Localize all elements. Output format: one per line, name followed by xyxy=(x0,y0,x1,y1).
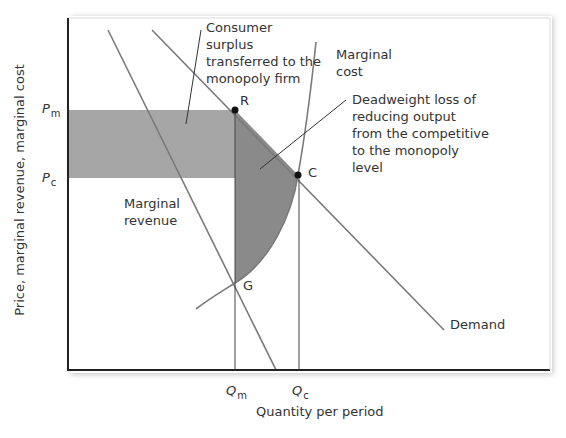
y-axis-label: Price, marginal revenue, marginal cost xyxy=(12,64,27,316)
deadweight-loss-annotation: Deadweight loss of reducing output from … xyxy=(352,91,489,176)
marginal-cost-label: Marginal cost xyxy=(336,46,392,80)
pm-main: P xyxy=(42,101,50,116)
point-c-marker xyxy=(295,172,302,179)
pc-main: P xyxy=(42,170,50,185)
mr-line-1: Marginal xyxy=(124,195,180,212)
dwl-line-5: level xyxy=(352,159,489,176)
mc-line-1: Marginal xyxy=(336,46,392,63)
cs-line-3: transferred to the xyxy=(206,53,321,70)
point-r-marker xyxy=(232,107,239,114)
qc-sub: c xyxy=(303,390,309,401)
demand-label: Demand xyxy=(450,317,505,333)
pc-tick-label: Pc xyxy=(42,170,56,187)
consumer-surplus-annotation: Consumer surplus transferred to the mono… xyxy=(206,19,321,87)
qm-main: Q xyxy=(226,383,236,398)
pm-tick-label: Pm xyxy=(42,101,61,118)
cs-line-1: Consumer xyxy=(206,19,321,36)
point-c-label: C xyxy=(308,165,317,181)
qc-tick-label: Qc xyxy=(292,383,309,400)
dwl-line-3: from the competitive xyxy=(352,125,489,142)
dwl-line-2: reducing output xyxy=(352,108,489,125)
mc-line-2: cost xyxy=(336,63,392,80)
pc-sub: c xyxy=(51,177,57,188)
pm-sub: m xyxy=(51,108,61,119)
point-g-label: G xyxy=(243,278,253,294)
qm-tick-label: Qm xyxy=(226,383,247,400)
dwl-line-4: to the monopoly xyxy=(352,142,489,159)
dwl-line-1: Deadweight loss of xyxy=(352,91,489,108)
cs-line-2: surplus xyxy=(206,36,321,53)
qm-sub: m xyxy=(237,390,247,401)
cs-line-4: monopoly firm xyxy=(206,70,321,87)
marginal-revenue-label: Marginal revenue xyxy=(124,195,180,229)
qc-main: Q xyxy=(292,383,302,398)
diagram-canvas: Price, marginal revenue, marginal cost P… xyxy=(0,0,566,438)
x-axis-label: Quantity per period xyxy=(256,404,383,420)
point-r-label: R xyxy=(240,93,249,109)
mr-line-2: revenue xyxy=(124,212,180,229)
